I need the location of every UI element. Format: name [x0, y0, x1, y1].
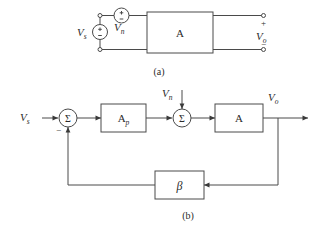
caption-b: (b): [182, 210, 194, 222]
output-minus-sign: −: [261, 39, 266, 49]
amplifier-block-a-label: A: [176, 27, 184, 39]
summing-junction-2-symbol: Σ: [179, 113, 185, 124]
feedback-block-label: β: [176, 179, 183, 193]
output-terminal-top: [262, 14, 266, 18]
arrow-into-preamp: [96, 116, 102, 121]
input-terminal-bottom: [98, 48, 102, 52]
source-vs-label: Vs: [77, 26, 87, 41]
source-vs-symbol: [93, 25, 108, 40]
amplifier-block-b-label: A: [235, 112, 243, 124]
arrow-vn-into-summer2: [180, 104, 185, 110]
output-vo-label-b: Vo: [268, 91, 279, 106]
figure-container: A Vs Vn: [0, 0, 318, 233]
input-terminal-top: [98, 14, 102, 18]
noise-vn-label-b: Vn: [162, 87, 173, 102]
panel-b: Vs Σ − Ap Vn: [20, 87, 308, 222]
arrow-into-summer2: [167, 116, 173, 121]
figure-svg: A Vs Vn: [0, 0, 318, 233]
caption-a: (a): [153, 66, 164, 78]
input-vs-label-b: Vs: [20, 111, 30, 126]
summing-junction-1-minus: −: [56, 125, 61, 135]
output-plus-sign: +: [261, 18, 266, 28]
arrow-into-beta: [204, 183, 210, 188]
panel-a: A Vs Vn: [77, 8, 267, 78]
summing-junction-1-symbol: Σ: [65, 113, 71, 124]
arrow-output-b: [303, 116, 309, 121]
arrow-feedback-into-summer1: [66, 127, 71, 133]
arrow-into-amplifier-b: [210, 116, 216, 121]
arrow-into-summer1: [53, 116, 59, 121]
